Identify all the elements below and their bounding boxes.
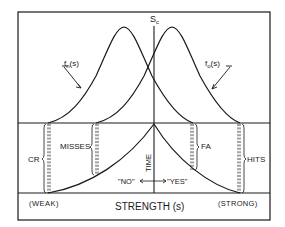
diagram-frame bbox=[18, 12, 270, 220]
x-axis-label: STRENGTH (s) bbox=[115, 201, 184, 212]
signal-label-arrow bbox=[212, 67, 230, 89]
x-axis-weak-label: (WEAK) bbox=[29, 199, 59, 208]
cr-brace bbox=[42, 124, 46, 193]
left-time-curve bbox=[48, 124, 154, 193]
signal-detection-diagram: Sc fn(s) fo(s) CR MISSES FA HITS TIME "N… bbox=[0, 0, 285, 227]
noise-curve-label: fn(s) bbox=[64, 59, 79, 69]
time-axis-label: TIME bbox=[144, 154, 153, 172]
cr-label: CR bbox=[28, 155, 40, 164]
response-yes-label: "YES" bbox=[167, 177, 188, 186]
hits-label: HITS bbox=[247, 155, 265, 164]
x-axis-strong-label: (STRONG) bbox=[218, 199, 258, 208]
misses-label: MISSES bbox=[60, 142, 90, 151]
response-no-label: "NO" bbox=[118, 177, 135, 186]
signal-curve-label: fo(s) bbox=[205, 59, 220, 69]
misses-brace bbox=[90, 124, 94, 175]
signal-distribution-curve bbox=[96, 27, 240, 123]
hits-brace bbox=[242, 124, 246, 193]
arrow-head-icon bbox=[76, 84, 81, 88]
threshold-label: Sc bbox=[150, 14, 159, 25]
fa-label: FA bbox=[201, 142, 211, 151]
fa-brace bbox=[195, 124, 199, 170]
